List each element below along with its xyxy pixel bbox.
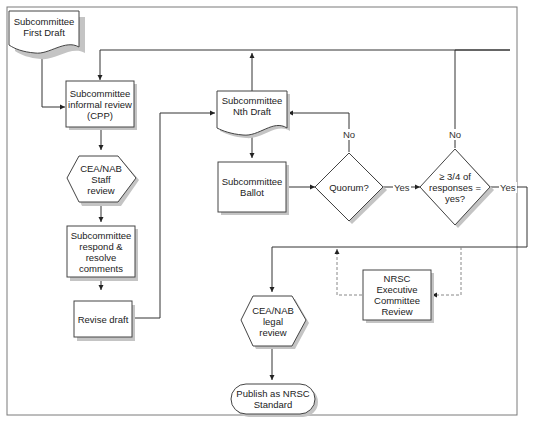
label-revise-draft: Revise draft (74, 301, 132, 337)
edge-label-tq-yes: Yes (499, 182, 517, 193)
edge-loop-to-informal-review (100, 50, 510, 80)
edge-label-tq-no: No (448, 129, 462, 140)
label-respond-resolve: Subcommittee respond & resolve comments (67, 226, 135, 277)
label-informal-review: Subcommittee informal review (CPP) (66, 81, 134, 127)
edge-label-quorum-yes: Yes (393, 182, 411, 193)
edge-first-draft-to-informal-review (42, 53, 65, 107)
edge-revise-to-nth (132, 113, 215, 318)
label-nth-draft: Subcommittee Nth Draft (217, 94, 287, 118)
edge-line-to-exec (432, 247, 461, 295)
edge-quorum-no (288, 113, 349, 152)
edge-exec-to-line (337, 249, 362, 295)
label-exec-review: NRSC Executive Committee Review (363, 270, 431, 320)
label-three-quarters: ≥ 3/4 of responses = yes? (420, 167, 490, 207)
edge-tq-no (455, 50, 510, 148)
label-quorum: Quorum? (315, 176, 383, 198)
label-legal-review: CEA/NAB legal review (246, 296, 300, 346)
edge-label-quorum-no: No (342, 129, 356, 140)
label-publish: Publish as NRSC Standard (231, 384, 315, 414)
label-staff-review: CEA/NAB Staff review (74, 156, 128, 202)
label-first-draft: Subcommittee First Draft (9, 14, 79, 40)
label-ballot: Subcommittee Ballot (218, 162, 286, 212)
flowchart-canvas (0, 0, 537, 430)
